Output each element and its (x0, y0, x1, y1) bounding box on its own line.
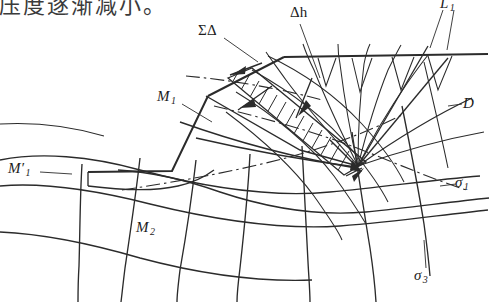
retaining-wall-outline (88, 96, 214, 190)
leader-M1-prime (40, 172, 72, 174)
label-M2-sub: 2 (149, 226, 155, 237)
label-sum-delta: ΣΔ (198, 23, 217, 38)
label-L1-sub: 1 (449, 2, 455, 13)
leader-L1 (430, 10, 443, 48)
surcharge-arrow-4 (318, 58, 336, 86)
surcharge-arrow-1 (352, 58, 372, 92)
label-sigma3: σ3 (414, 268, 428, 285)
sigma1-curve-family (78, 62, 448, 302)
label-M1-prime-base: M (8, 160, 21, 176)
surcharge-arrow-2 (392, 57, 414, 90)
label-sigma1-base: σ (455, 174, 463, 190)
surcharge-arrow-3 (428, 56, 452, 90)
radial-slip-fan (266, 44, 428, 166)
label-D-text: D (463, 95, 474, 111)
label-M1-sub: 1 (170, 95, 176, 106)
thrust-arrow-group (230, 63, 364, 182)
thrust-arrow-sum-delta (238, 86, 272, 110)
label-sigma3-base: σ (414, 267, 422, 283)
label-L1: L1 (440, 0, 455, 13)
label-sum-delta-text: ΣΔ (198, 22, 217, 38)
slip-line-field-diagram (0, 0, 490, 304)
label-sigma3-sub: 3 (422, 274, 428, 285)
leader-delta-h (300, 24, 320, 78)
label-M2: M2 (136, 220, 155, 237)
figure-root: 压度逐渐减小。 (0, 0, 490, 304)
wedge-boundary-lines (180, 46, 484, 168)
sigma3-curve-family (0, 124, 489, 281)
thrust-arrow-mid (296, 78, 312, 118)
label-D: D (463, 96, 474, 111)
label-M1-prime-sub: 1 (24, 167, 30, 178)
label-sigma1-sub: 1 (463, 181, 469, 192)
leader-sum-delta (224, 38, 258, 62)
label-delta-h: Δh (290, 5, 308, 20)
label-sigma1: σ1 (455, 175, 469, 192)
label-M1-base: M (157, 88, 170, 104)
leader-sigma3 (424, 240, 426, 268)
label-L1-base: L (440, 0, 449, 11)
label-M1: M1 (157, 89, 176, 106)
label-delta-h-text: Δh (290, 4, 308, 20)
label-M1-prime: M′1 (8, 161, 31, 178)
label-M2-base: M (136, 219, 149, 235)
leader-L1-b (447, 10, 454, 50)
surcharge-arrow-group (318, 56, 452, 92)
